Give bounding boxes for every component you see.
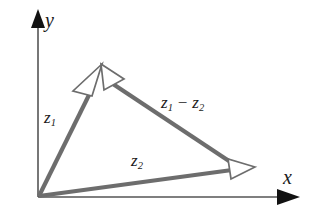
- vector-z1-label-base: z: [44, 108, 51, 127]
- vector-z2-arrowhead: [228, 159, 255, 179]
- vector-z1-arrowhead: [73, 64, 102, 96]
- vector-diagram-figure: y x z1 z2 z1−z2: [0, 0, 318, 220]
- y-axis-label: y: [45, 10, 54, 30]
- x-axis-label: x: [283, 167, 292, 187]
- x-axis-label-text: x: [283, 166, 292, 188]
- y-axis-label-text: y: [45, 9, 54, 31]
- vector-z2-shaft: [39, 170, 232, 196]
- z1-minus-z2-base2: z: [192, 93, 199, 112]
- y-axis-arrowhead: [31, 9, 45, 28]
- z1-minus-z2-subscript2: 2: [199, 102, 204, 113]
- vector-z2-label-base: z: [131, 151, 138, 170]
- vector-z2-label: z2: [131, 152, 143, 171]
- z1-minus-z2-base1: z: [161, 93, 168, 112]
- minus-operator: −: [173, 93, 192, 112]
- x-axis-arrowhead: [277, 189, 300, 205]
- vector-z1-minus-z2-label: z1−z2: [161, 94, 204, 113]
- vector-z1-label: z1: [44, 109, 56, 128]
- vector-z1-minus-z2-arrowhead: [101, 64, 124, 90]
- vector-z2-label-subscript: 2: [138, 160, 143, 171]
- vector-z1-label-subscript: 1: [51, 117, 56, 128]
